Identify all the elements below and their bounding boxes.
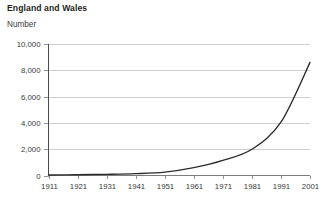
x-tick-label: 1921 [70, 182, 87, 191]
plot-area: 10,0008,0006,0004,0002,0000 191119211931… [0, 0, 325, 209]
y-tick-label: 4,000 [21, 119, 41, 128]
x-tick-label: 1951 [157, 182, 174, 191]
x-tick-label: 1931 [99, 182, 116, 191]
x-tick-labels-group: 1911192119311941195119611971198119912001 [41, 182, 319, 191]
y-tick-label: 6,000 [21, 93, 41, 102]
x-tick-label: 1941 [128, 182, 145, 191]
chart-container: England and Wales Number 10,0008,0006,00… [0, 0, 325, 209]
x-tick-label: 1981 [244, 182, 261, 191]
x-tick-label: 1961 [186, 182, 203, 191]
x-tick-label: 1991 [273, 182, 290, 191]
x-tick-label: 2001 [302, 182, 319, 191]
y-tick-label: 8,000 [21, 66, 41, 75]
y-tick-label: 0 [36, 172, 41, 181]
x-tick-label: 1971 [215, 182, 232, 191]
y-tick-marks-group [44, 45, 49, 177]
y-tick-label: 2,000 [21, 145, 41, 154]
y-tick-label: 10,000 [17, 40, 42, 49]
x-tick-label: 1911 [41, 182, 58, 191]
data-series-line [49, 62, 311, 175]
y-tick-labels-group: 10,0008,0006,0004,0002,0000 [17, 40, 42, 181]
